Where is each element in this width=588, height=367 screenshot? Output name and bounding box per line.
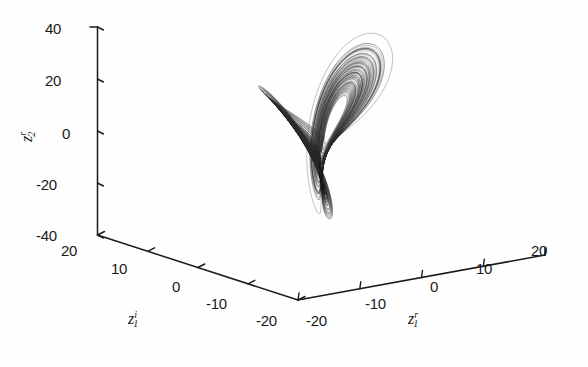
tick-label-x-10: 10: [476, 261, 492, 276]
axis-title-z1r-sup: r: [414, 309, 418, 320]
tick-y-0: [198, 264, 205, 268]
attractor-trajectory: [258, 33, 392, 219]
tick-z-0: [98, 131, 104, 134]
tick-label-x-m10: -10: [365, 296, 386, 311]
tick-x-m20: [298, 293, 299, 300]
tick-y-10: [148, 248, 155, 252]
figure-3d-attractor-plot: 40 20 0 -20 -40 20 10 0 -10 -20 -20 -10 …: [0, 0, 588, 367]
tick-label-z-20: 20: [45, 73, 61, 88]
tick-label-x-m20: -20: [306, 313, 327, 328]
tick-label-z-0: 0: [62, 126, 70, 141]
tick-y-20: [98, 232, 105, 236]
tick-label-z-40: 40: [45, 21, 61, 36]
tick-z-m20: [98, 183, 104, 186]
attractor-plot-canvas: [0, 0, 588, 367]
axis-title-z2r: z2r: [18, 132, 37, 142]
axis-title-z1i: z1i: [128, 310, 137, 329]
tick-y-m10: [248, 280, 255, 284]
z-axis-title-wrapper: z2r: [18, 118, 48, 148]
tick-label-y-m10: -10: [206, 296, 227, 311]
tick-x-m10: [360, 282, 361, 289]
tick-label-y-20: 20: [61, 243, 77, 258]
tick-label-y-0: 0: [172, 279, 180, 294]
tick-label-y-m20: -20: [256, 313, 277, 328]
axis-title-z2r-sup: r: [17, 132, 28, 136]
tick-label-y-10: 10: [111, 261, 127, 276]
tick-x-0: [422, 271, 423, 278]
tick-label-x-0: 0: [430, 279, 438, 294]
axis-title-z1i-sup: i: [134, 309, 137, 320]
tick-label-z-m20: -20: [36, 177, 57, 192]
tick-z-20: [98, 79, 104, 82]
tick-z-40: [98, 27, 104, 30]
tick-label-z-m40: -40: [36, 228, 57, 243]
axis-title-z1r: z1r: [408, 310, 418, 329]
tick-label-x-20: 20: [531, 243, 547, 258]
